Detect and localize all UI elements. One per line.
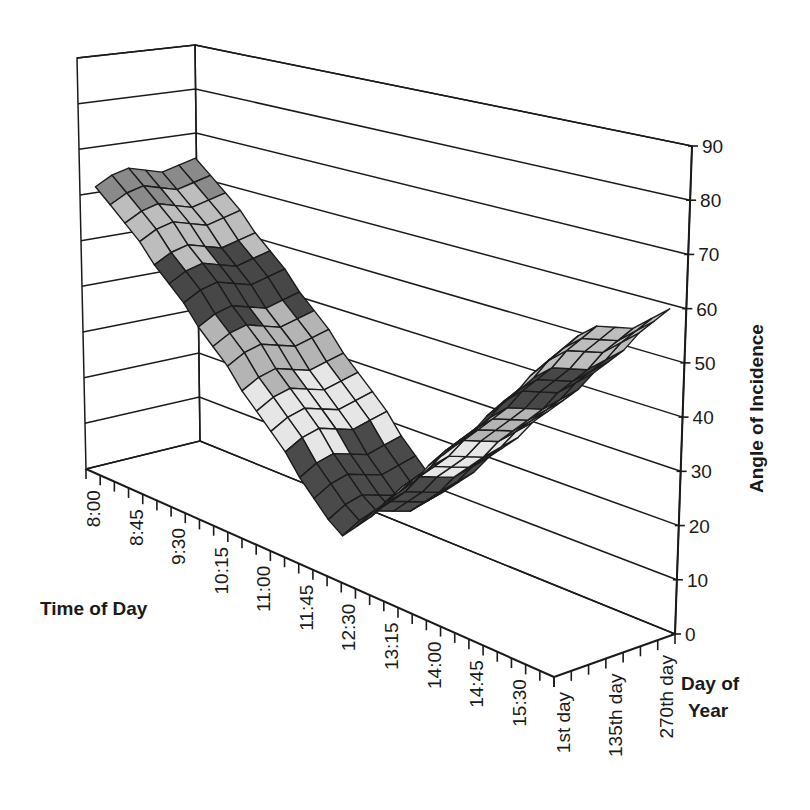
time-axis-title: Time of Day — [40, 598, 148, 619]
chart-canvas: 8:008:459:3010:1511:0011:4512:3013:1514:… — [0, 0, 810, 810]
value-tick-label: 10 — [687, 570, 708, 591]
day-axis-title-line2: Year — [688, 700, 729, 721]
time-axis-ticks: 8:008:459:3010:1511:0011:4512:3013:1514:… — [83, 469, 554, 727]
time-tick-label: 8:45 — [126, 509, 147, 546]
value-tick-label: 50 — [694, 353, 715, 374]
value-tick-label: 30 — [691, 461, 712, 482]
time-tick-label: 14:00 — [424, 641, 445, 689]
day-tick-label: 135th day — [605, 673, 626, 757]
value-axis-ticks: 0102030405060708090 — [671, 136, 723, 645]
value-tick-label: 20 — [689, 516, 710, 537]
value-axis-title: Angle of Incidence — [746, 324, 767, 493]
value-tick-label: 90 — [702, 136, 723, 157]
surface-chart: 8:008:459:3010:1511:0011:4512:3013:1514:… — [0, 0, 810, 810]
day-axis-title-line1: Day of — [681, 673, 740, 694]
time-tick-label: 12:30 — [338, 604, 359, 652]
time-tick-label: 9:30 — [168, 528, 189, 565]
value-tick-label: 70 — [698, 244, 719, 265]
value-tick-label: 80 — [700, 190, 721, 211]
time-tick-label: 8:00 — [83, 490, 104, 527]
time-tick-label: 10:15 — [211, 547, 232, 595]
time-tick-label: 14:45 — [466, 660, 487, 708]
day-tick-label: 270th day — [656, 655, 677, 739]
time-tick-label: 11:45 — [296, 585, 317, 631]
value-tick-label: 40 — [693, 407, 714, 428]
surface-plot — [95, 158, 669, 536]
day-tick-label: 1st day — [553, 691, 574, 753]
value-tick-label: 0 — [685, 624, 696, 645]
time-tick-label: 15:30 — [509, 679, 530, 727]
time-tick-label: 13:15 — [381, 623, 402, 671]
time-tick-label: 11:00 — [253, 566, 274, 612]
value-tick-label: 60 — [696, 299, 717, 320]
value-axis-line — [675, 146, 692, 634]
day-axis-ticks: 1st day135th day270th day — [553, 634, 678, 757]
